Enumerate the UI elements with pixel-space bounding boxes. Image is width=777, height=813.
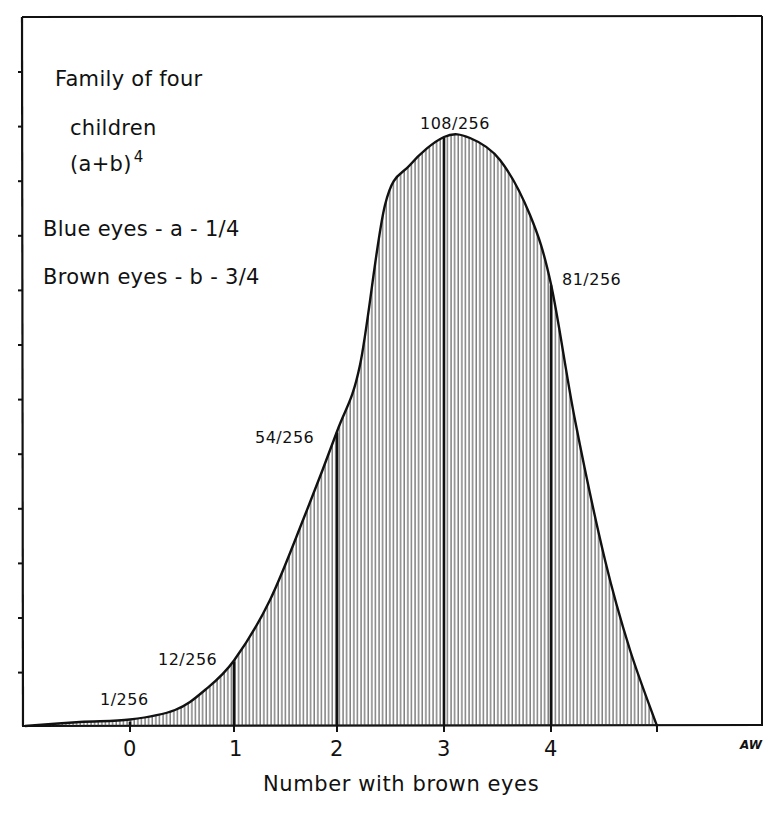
legend-title-line2: children <box>70 116 157 140</box>
data-label-2: 54/256 <box>255 428 314 447</box>
data-label-4: 81/256 <box>562 270 621 289</box>
formula-base: (a+b) <box>70 152 132 176</box>
legend-title-line1: Family of four <box>55 67 203 91</box>
x-tick-label-2: 2 <box>330 737 343 761</box>
artist-signature: AW <box>740 738 762 752</box>
data-label-1: 12/256 <box>158 650 217 669</box>
data-label-0: 1/256 <box>100 690 149 709</box>
legend-blue-eyes: Blue eyes - a - 1/4 <box>43 217 240 241</box>
x-axis-title: Number with brown eyes <box>263 772 539 796</box>
legend-formula: (a+b)4 <box>70 152 144 176</box>
x-tick-label-3: 3 <box>437 737 450 761</box>
x-axis-ticks <box>130 726 657 732</box>
x-tick-label-4: 4 <box>544 737 557 761</box>
data-label-3: 108/256 <box>420 114 490 133</box>
x-tick-label-1: 1 <box>229 737 242 761</box>
legend-brown-eyes: Brown eyes - b - 3/4 <box>43 265 260 289</box>
formula-exponent: 4 <box>134 148 144 166</box>
x-tick-label-0: 0 <box>123 737 136 761</box>
